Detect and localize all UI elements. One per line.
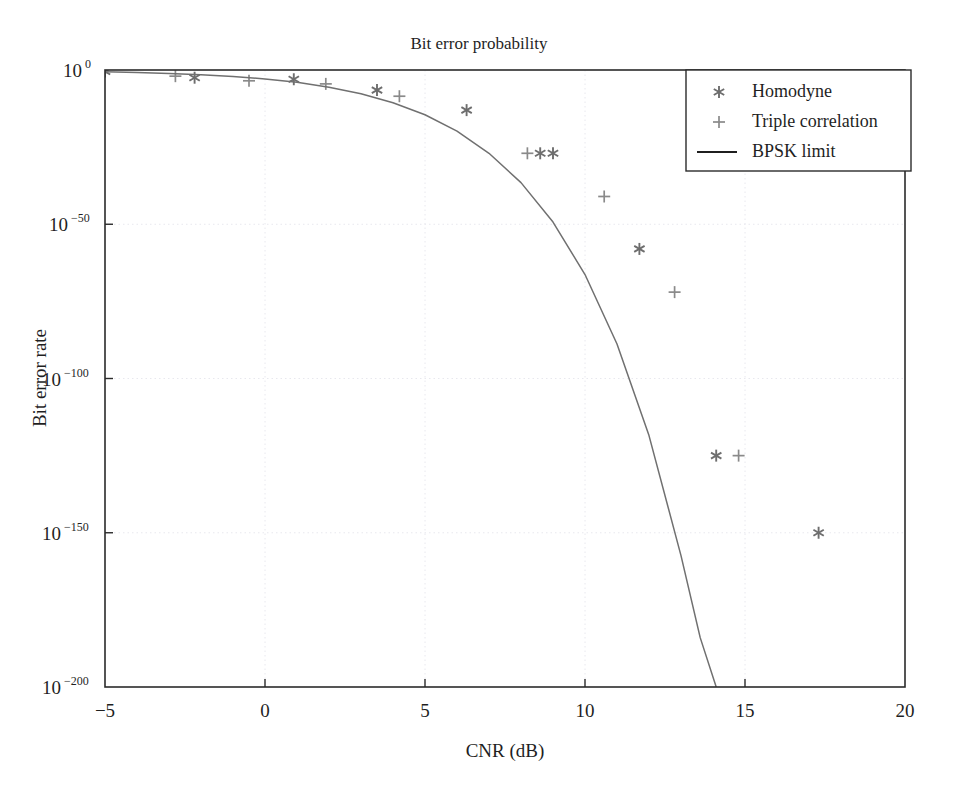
y-tick-mantissa: 10: [42, 523, 61, 544]
chart-title: Bit error probability: [411, 34, 548, 53]
y-tick-mantissa: 10: [49, 214, 68, 235]
x-tick-label: 15: [736, 700, 755, 721]
x-tick-label: 0: [260, 700, 270, 721]
y-tick-exponent: −150: [64, 520, 89, 534]
y-axis-label: Bit error rate: [29, 329, 50, 427]
y-tick-exponent: −50: [71, 211, 90, 225]
x-tick-label: 20: [896, 700, 915, 721]
x-axis-label: CNR (dB): [466, 740, 545, 762]
y-tick-exponent: −100: [64, 366, 89, 380]
x-tick-label: 5: [420, 700, 430, 721]
chart-legend: HomodyneTriple correlationBPSK limit: [686, 70, 911, 171]
y-tick-exponent: 0: [85, 57, 91, 71]
legend-label: Homodyne: [752, 81, 832, 101]
y-tick-exponent: −200: [64, 674, 89, 688]
x-tick-label: 10: [576, 700, 595, 721]
legend-label: Triple correlation: [752, 111, 878, 131]
x-tick-label: −5: [95, 700, 115, 721]
legend-label: BPSK limit: [752, 141, 836, 161]
figure-container: Bit error probability −505101520 10010−5…: [0, 0, 958, 797]
bit-error-probability-chart: Bit error probability −505101520 10010−5…: [0, 0, 958, 797]
y-tick-mantissa: 10: [63, 60, 82, 81]
y-tick-mantissa: 10: [42, 677, 61, 698]
